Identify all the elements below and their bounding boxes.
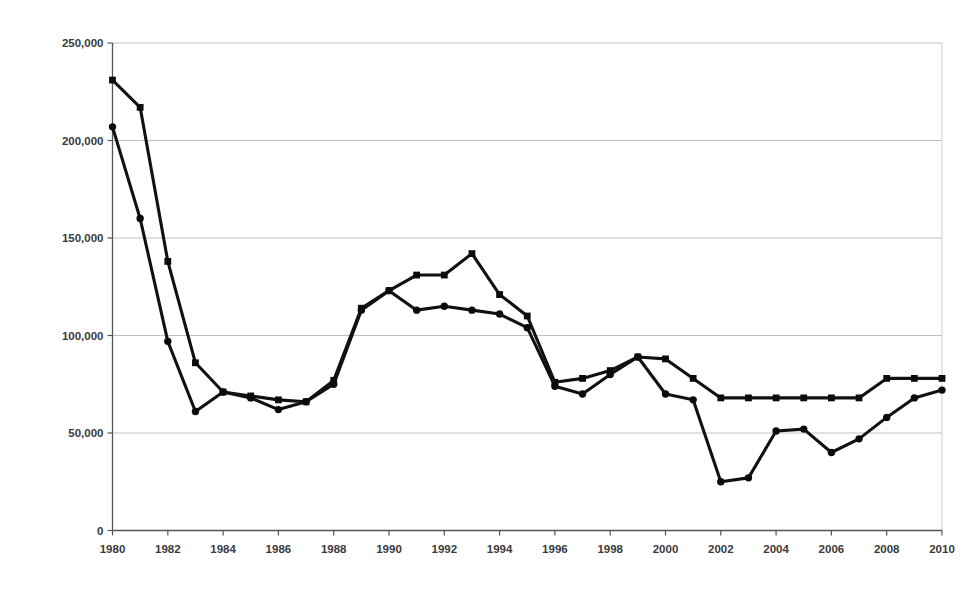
data-point-marker [496, 310, 503, 317]
data-point-marker [662, 356, 669, 363]
data-point-marker [883, 414, 890, 421]
data-point-marker [136, 215, 143, 222]
data-point-marker [938, 386, 945, 393]
data-point-marker [441, 272, 448, 279]
axes [113, 43, 943, 531]
data-point-marker [137, 104, 144, 111]
data-point-marker [607, 371, 614, 378]
data-point-marker [469, 250, 476, 257]
x-tick-label: 2010 [929, 543, 955, 555]
y-axis-ticks: 050,000100,000150,000200,000250,000 [62, 37, 113, 537]
data-point-marker [800, 395, 807, 402]
data-point-marker [302, 398, 309, 405]
data-point-marker [717, 478, 724, 485]
x-tick-label: 1990 [376, 543, 402, 555]
data-point-marker [773, 395, 780, 402]
y-tick-label: 200,000 [62, 135, 104, 147]
data-point-marker [275, 406, 282, 413]
x-tick-label: 1980 [100, 543, 126, 555]
y-tick-label: 150,000 [62, 232, 104, 244]
data-point-marker [524, 313, 531, 320]
data-point-marker [358, 306, 365, 313]
data-point-marker [745, 474, 752, 481]
data-point-marker [717, 395, 724, 402]
y-tick-label: 100,000 [62, 330, 104, 342]
x-tick-label: 1992 [432, 543, 458, 555]
x-tick-label: 1986 [266, 543, 292, 555]
x-tick-label: 2004 [763, 543, 789, 555]
chart-container: 050,000100,000150,000200,000250,00019801… [0, 0, 976, 591]
data-point-marker [800, 425, 807, 432]
data-point-marker [828, 449, 835, 456]
data-point-marker [441, 303, 448, 310]
x-tick-label: 2000 [653, 543, 679, 555]
data-point-marker [551, 383, 558, 390]
data-point-marker [413, 272, 420, 279]
data-point-marker [772, 427, 779, 434]
data-point-marker [385, 287, 392, 294]
x-tick-label: 2002 [708, 543, 734, 555]
data-point-marker [330, 381, 337, 388]
data-point-marker [911, 394, 918, 401]
data-point-marker [219, 388, 226, 395]
data-series [109, 77, 945, 406]
x-axis-ticks: 1980198219841986198819901992199419961998… [100, 531, 955, 555]
data-point-marker [745, 395, 752, 402]
x-tick-label: 2008 [874, 543, 900, 555]
data-point-marker [939, 375, 946, 382]
data-point-marker [579, 375, 586, 382]
data-point-marker [662, 390, 669, 397]
data-series [109, 123, 946, 485]
data-point-marker [855, 435, 862, 442]
data-point-marker [413, 306, 420, 313]
data-point-marker [496, 291, 503, 298]
data-point-marker [524, 324, 531, 331]
x-tick-label: 1998 [597, 543, 623, 555]
x-tick-label: 1984 [210, 543, 236, 555]
data-point-marker [690, 375, 697, 382]
data-point-marker [579, 390, 586, 397]
line-chart-plot: 050,000100,000150,000200,000250,00019801… [0, 0, 976, 591]
data-point-marker [109, 77, 116, 84]
data-point-marker [247, 394, 254, 401]
data-point-marker [911, 375, 918, 382]
y-tick-label: 0 [97, 525, 103, 537]
data-point-marker [634, 353, 641, 360]
data-point-marker [468, 306, 475, 313]
data-point-marker [192, 359, 199, 366]
x-tick-label: 1982 [155, 543, 181, 555]
y-tick-label: 50,000 [68, 427, 103, 439]
x-tick-label: 1994 [487, 543, 513, 555]
series-line [113, 127, 943, 482]
data-point-marker [828, 395, 835, 402]
data-point-marker [164, 338, 171, 345]
data-point-marker [192, 408, 199, 415]
data-point-marker [856, 395, 863, 402]
data-point-marker [164, 258, 171, 265]
data-point-marker [689, 396, 696, 403]
data-point-marker [275, 396, 282, 403]
x-tick-label: 1996 [542, 543, 568, 555]
data-point-marker [109, 123, 116, 130]
x-tick-label: 2006 [819, 543, 845, 555]
gridlines [113, 43, 943, 433]
series-line [113, 80, 943, 402]
x-tick-label: 1988 [321, 543, 347, 555]
y-tick-label: 250,000 [62, 37, 104, 49]
data-point-marker [883, 375, 890, 382]
